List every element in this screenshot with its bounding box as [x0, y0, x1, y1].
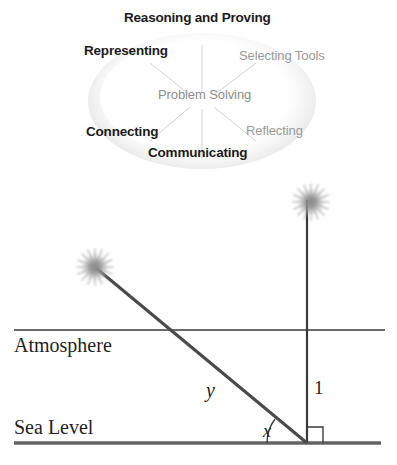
process-label-representing: Representing [84, 44, 168, 58]
star-left-icon [77, 249, 113, 285]
star-right-icon [293, 184, 329, 220]
process-label-connecting: Connecting [86, 125, 158, 139]
process-label-problem-solving: Problem Solving [158, 88, 251, 101]
hypotenuse-line [96, 268, 307, 443]
hypotenuse-label-y: y [206, 380, 215, 400]
figure-page: Reasoning and Proving Representing Selec… [0, 0, 397, 465]
process-label-reasoning-and-proving: Reasoning and Proving [124, 11, 271, 25]
process-label-selecting-tools: Selecting Tools [239, 49, 325, 62]
process-ellipse-diagram: Reasoning and Proving Representing Selec… [0, 0, 397, 180]
vertical-side-label-1: 1 [314, 378, 324, 397]
process-label-reflecting: Reflecting [246, 124, 303, 137]
process-label-communicating: Communicating [148, 146, 247, 160]
trigonometry-figure: Atmosphere Sea Level y x 1 [0, 180, 397, 465]
atmosphere-label: Atmosphere [14, 335, 112, 355]
angle-label-x: x [263, 422, 271, 440]
right-angle-square-marker [307, 427, 323, 443]
sea-level-label: Sea Level [14, 417, 93, 437]
